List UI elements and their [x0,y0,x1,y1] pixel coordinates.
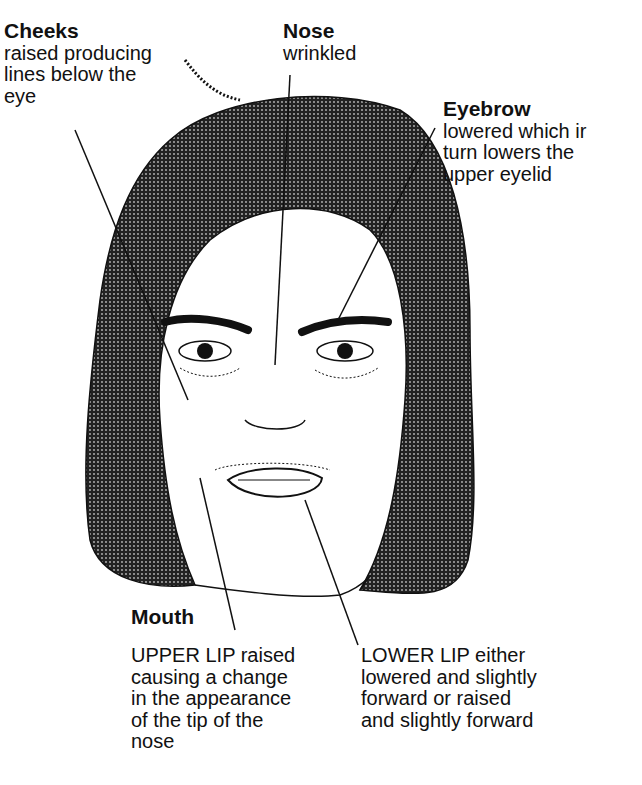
lower-lip-line: and slightly forward [361,710,537,732]
hair [86,97,474,594]
lower-lip-line: lowered and slightly [361,667,537,689]
eyebrow-title: Eyebrow [443,98,586,121]
nose-title: Nose [283,20,356,43]
cheeks-line: eye [4,86,152,108]
upper-lip-line: of the tip of the [131,710,295,732]
mouth-label: Mouth [131,606,194,629]
face-outline [195,576,370,597]
upper-lip-line: UPPER LIP raised [131,645,295,667]
cheeks-title: Cheeks [4,20,152,43]
upper-lip-line: causing a change [131,667,295,689]
lower-lip-label: LOWER LIP either lowered and slightly fo… [361,645,537,731]
lower-lip-pointer [305,500,358,645]
upper-lip-pointer [200,478,235,630]
lower-lip-line: forward or raised [361,688,537,710]
right-eyebrow [302,320,388,332]
nose-line: wrinkled [283,43,356,65]
cheeks-hair-pointer [185,60,240,100]
upper-lip-label: UPPER LIP raised causing a change in the… [131,645,295,753]
eyebrow-line: turn lowers the [443,142,586,164]
mouth-title: Mouth [131,606,194,629]
nose-label: Nose wrinkled [283,20,356,64]
upper-lip-line: nose [131,731,295,753]
left-eyebrow [165,319,248,330]
mouth [228,468,322,496]
cheeks-label: Cheeks raised producing lines below the … [4,20,152,107]
lower-lip-line: LOWER LIP either [361,645,537,667]
cheeks-line: raised producing [4,43,152,65]
eyebrow-line: upper eyelid [443,164,586,186]
eyebrow-label: Eyebrow lowered which ir turn lowers the… [443,98,586,185]
nose [245,420,305,429]
cheeks-line: lines below the [4,64,152,86]
upper-lip-line: in the appearance [131,688,295,710]
eyebrow-line: lowered which ir [443,121,586,143]
